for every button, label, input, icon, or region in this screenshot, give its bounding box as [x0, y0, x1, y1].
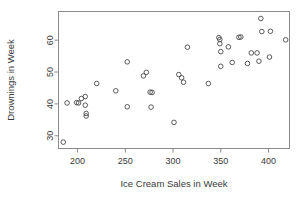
- data-point: [283, 38, 288, 43]
- data-point: [255, 51, 260, 56]
- data-point: [149, 105, 154, 110]
- y-tick-label: 50: [46, 67, 56, 77]
- data-point: [218, 64, 223, 69]
- x-axis-ticks: [78, 149, 269, 153]
- y-axis-tick-labels: 30405060: [46, 35, 56, 141]
- y-axis-ticks: [55, 40, 59, 136]
- data-point: [260, 29, 265, 34]
- y-tick-label: 40: [46, 99, 56, 109]
- data-point: [144, 70, 149, 75]
- data-point: [94, 81, 99, 86]
- scatter-plot-figure: 200250300350400 30405060 Ice Cream Sales…: [0, 0, 303, 199]
- data-point: [179, 75, 184, 80]
- data-point: [245, 61, 250, 66]
- data-points: [61, 16, 288, 144]
- x-axis-label: Ice Cream Sales in Week: [120, 178, 227, 189]
- x-tick-label: 350: [213, 156, 228, 166]
- data-point: [268, 29, 273, 34]
- data-point: [125, 60, 130, 65]
- x-tick-label: 200: [70, 156, 85, 166]
- data-point: [181, 80, 186, 85]
- y-tick-label: 30: [46, 131, 56, 141]
- x-axis-tick-labels: 200250300350400: [70, 156, 276, 166]
- data-point: [83, 94, 88, 99]
- data-point: [206, 81, 211, 86]
- x-tick-label: 400: [261, 156, 276, 166]
- data-point: [230, 60, 235, 65]
- x-tick-label: 300: [166, 156, 181, 166]
- data-point: [249, 51, 254, 56]
- data-point: [218, 49, 223, 54]
- data-point: [172, 120, 177, 125]
- data-point: [185, 45, 190, 50]
- plot-canvas: 200250300350400 30405060 Ice Cream Sales…: [0, 0, 303, 199]
- data-point: [113, 89, 118, 94]
- data-point: [257, 59, 262, 64]
- plot-frame: [59, 12, 290, 149]
- data-point: [65, 101, 70, 106]
- data-point: [125, 104, 130, 109]
- data-point: [267, 55, 272, 60]
- data-point: [259, 16, 264, 21]
- data-point: [61, 140, 66, 145]
- y-tick-label: 60: [46, 35, 56, 45]
- data-point: [226, 45, 231, 50]
- x-tick-label: 250: [118, 156, 133, 166]
- data-point: [83, 103, 88, 108]
- y-axis-label: Drownings in Week: [5, 39, 16, 121]
